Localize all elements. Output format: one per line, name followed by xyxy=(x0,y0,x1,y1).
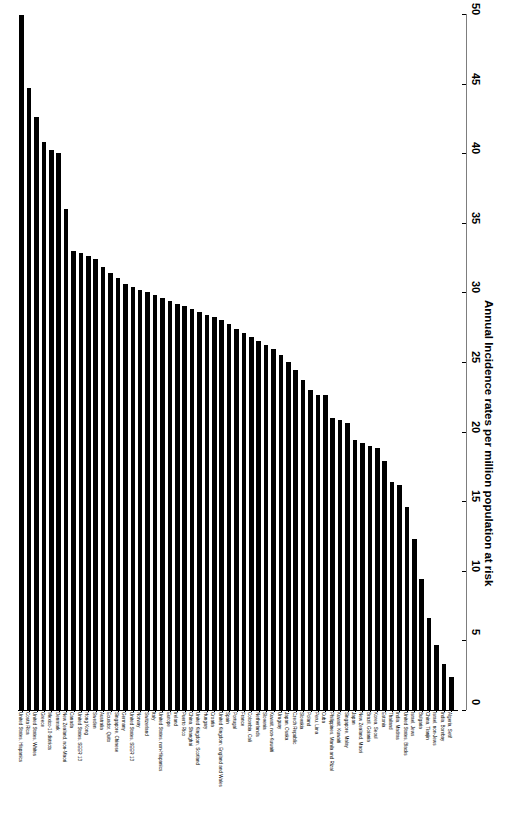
bar-rect xyxy=(153,295,158,710)
bar-rect xyxy=(49,150,54,710)
bar xyxy=(145,14,150,710)
bar-rect xyxy=(242,333,247,710)
bar-rect xyxy=(390,482,395,710)
category-label: United States, Whites xyxy=(31,712,38,756)
value-tick-label: 20 xyxy=(470,421,482,433)
bar-rect xyxy=(323,395,328,710)
value-tick xyxy=(462,223,466,224)
bar xyxy=(116,14,121,710)
bar-rect xyxy=(219,320,224,710)
bar xyxy=(175,14,180,710)
category-label: Thailand xyxy=(387,712,394,730)
bar-rect xyxy=(116,278,121,710)
bar-rect xyxy=(182,306,187,710)
bar-rect xyxy=(234,329,239,710)
bar xyxy=(49,14,54,710)
category-label: Singapore, Malay xyxy=(343,712,350,748)
value-tick xyxy=(462,14,466,15)
category-label: Uruguay xyxy=(276,712,283,729)
category-label: Germany xyxy=(120,712,127,731)
value-axis-line xyxy=(466,14,467,710)
category-label: United States, SEER 13 xyxy=(76,712,83,761)
bar xyxy=(160,14,165,710)
value-tick-label: 30 xyxy=(470,281,482,293)
bar xyxy=(138,14,143,710)
bar xyxy=(19,14,24,710)
bar xyxy=(286,14,291,710)
category-label: Australia xyxy=(98,712,105,730)
bar xyxy=(93,14,98,710)
bar-rect xyxy=(449,677,454,710)
bar xyxy=(316,14,321,710)
bar-rect xyxy=(256,341,261,710)
bar-rect xyxy=(212,317,217,710)
bar-rect xyxy=(197,312,202,710)
category-label: United States, SEER 13 xyxy=(128,712,135,761)
category-label: Algeria, Setif xyxy=(446,712,453,738)
value-tick xyxy=(462,710,466,711)
category-label: Israel, non-Jews xyxy=(431,712,438,745)
bar xyxy=(330,14,335,710)
bar-rect xyxy=(301,380,306,710)
value-tick-label: 35 xyxy=(470,212,482,224)
bar xyxy=(234,14,239,710)
value-tick xyxy=(462,292,466,293)
bar xyxy=(256,14,261,710)
bar-rect xyxy=(330,418,335,710)
category-label: Singapore, Chinese xyxy=(113,712,120,752)
category-label: China, Shanghai xyxy=(187,712,194,746)
category-label: Puerto Rico xyxy=(180,712,187,736)
bar xyxy=(301,14,306,710)
bar-rect xyxy=(419,579,424,710)
bar-rect xyxy=(34,117,39,710)
bar-rect xyxy=(145,292,150,710)
category-label: Greece xyxy=(39,712,46,727)
category-label: Hungary xyxy=(202,712,209,729)
category-label: New Zealand, Maori xyxy=(357,712,364,753)
bar xyxy=(271,14,276,710)
bar xyxy=(338,14,343,710)
bar xyxy=(153,14,158,710)
bar xyxy=(427,14,432,710)
category-label: India, Madras xyxy=(394,712,401,740)
category-label: Italy xyxy=(150,712,157,720)
bar-rect xyxy=(249,337,254,710)
bar-rect xyxy=(93,259,98,710)
category-label: Switzerland xyxy=(143,712,150,736)
bar-rect xyxy=(205,315,210,710)
value-tick-label: 40 xyxy=(470,142,482,154)
category-label: Bulgaria xyxy=(417,712,424,729)
bar xyxy=(390,14,395,710)
bar xyxy=(42,14,47,710)
bar xyxy=(368,14,373,710)
category-label: Ecuador, Quito xyxy=(105,712,112,742)
bar-rect xyxy=(271,349,276,710)
category-label: Estonia xyxy=(380,712,387,727)
bar-rect xyxy=(101,267,106,710)
bar xyxy=(219,14,224,710)
category-label: Poland xyxy=(305,712,312,726)
value-tick xyxy=(462,571,466,572)
bar-rect xyxy=(338,420,343,710)
bar-rect xyxy=(286,362,291,710)
bar xyxy=(242,14,247,710)
bar-rect xyxy=(138,290,143,710)
category-label: Kuwait, non-Kuwaiti xyxy=(268,712,275,752)
category-label: Europe xyxy=(165,712,172,727)
bar xyxy=(64,14,69,710)
category-label: United States, non-Hispanics xyxy=(157,712,164,771)
bar xyxy=(264,14,269,710)
bar xyxy=(168,14,173,710)
value-tick-label: 5 xyxy=(470,629,482,635)
value-tick-label: 15 xyxy=(470,490,482,502)
bar xyxy=(227,14,232,710)
bar-plot-area xyxy=(18,14,455,710)
category-label: New Zealand, non-Maori xyxy=(61,712,68,762)
bar xyxy=(101,14,106,710)
bar xyxy=(86,14,91,710)
value-tick xyxy=(462,640,466,641)
category-label: United States, Hispanics xyxy=(17,712,24,762)
category-label: Slovenia xyxy=(261,712,268,730)
category-label: Spain xyxy=(224,712,231,724)
category-label: Portugal xyxy=(231,712,238,729)
